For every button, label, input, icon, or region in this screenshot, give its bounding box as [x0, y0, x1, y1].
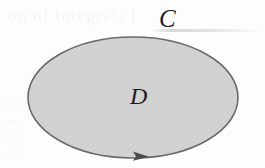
region-label-d: D: [130, 84, 147, 108]
curve-label-c: C: [159, 6, 176, 31]
figure-container: on of Integrals I C D: [0, 0, 265, 168]
